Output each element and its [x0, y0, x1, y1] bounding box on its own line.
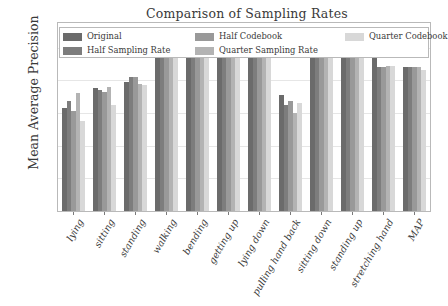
y-tick-mark [57, 178, 58, 179]
legend-swatch [195, 33, 214, 41]
legend-swatch [63, 33, 82, 41]
x-tick-label: sitting [91, 217, 116, 249]
bar [359, 49, 363, 211]
x-tick-mark [383, 212, 384, 215]
legend-entry[interactable]: Half Codebook [195, 30, 345, 43]
bar [235, 49, 239, 211]
bar [142, 85, 146, 211]
legend-swatch [345, 33, 364, 41]
legend-entry[interactable]: Half Sampling Rate [63, 44, 195, 57]
bar [173, 52, 177, 211]
gridline [58, 211, 430, 212]
x-tick-label: lying [64, 217, 85, 243]
x-tick-mark [290, 212, 291, 215]
y-axis-label: Mean Average Precision [26, 13, 41, 173]
legend-label: Half Codebook [219, 32, 282, 40]
x-tick-mark [135, 212, 136, 215]
x-tick-label: standing [117, 217, 147, 259]
legend-swatch [63, 47, 82, 55]
x-tick-label: walking [150, 217, 178, 255]
legend-swatch [195, 47, 214, 55]
x-tick-mark [259, 212, 260, 215]
bar [80, 121, 84, 211]
x-tick-label: MAP [405, 217, 426, 242]
x-tick-mark [166, 212, 167, 215]
x-tick-label: bending [180, 217, 209, 256]
x-tick-mark [228, 212, 229, 215]
chart-legend: OriginalHalf CodebookQuarter CodebookHal… [59, 27, 429, 58]
bar [390, 66, 394, 211]
x-tick-mark [414, 212, 415, 215]
legend-label: Quarter Sampling Rate [219, 46, 318, 54]
x-tick-mark [73, 212, 74, 215]
bar [204, 49, 208, 211]
x-tick-mark [104, 212, 105, 215]
bar [266, 49, 270, 211]
y-tick-mark [57, 80, 58, 81]
y-tick-mark [57, 145, 58, 146]
legend-label: Quarter Codebook [369, 32, 448, 40]
bar [421, 70, 425, 211]
y-tick-mark [57, 211, 58, 212]
x-tick-mark [321, 212, 322, 215]
x-tick-mark [352, 212, 353, 215]
legend-label: Half Sampling Rate [87, 46, 170, 54]
legend-label: Original [87, 32, 122, 40]
chart-title: Comparison of Sampling Rates [55, 6, 439, 21]
x-tick-mark [197, 212, 198, 215]
y-tick-mark [57, 47, 58, 48]
x-tick-label: lying down [235, 217, 271, 268]
legend-grid: OriginalHalf CodebookQuarter CodebookHal… [63, 30, 425, 55]
legend-entry[interactable]: Quarter Sampling Rate [195, 44, 345, 57]
bar [297, 103, 301, 211]
bar [328, 49, 332, 211]
y-tick-mark [57, 112, 58, 113]
legend-entry[interactable]: Original [63, 30, 195, 43]
x-tick-label: getting up [206, 217, 240, 266]
legend-entry[interactable]: Quarter Codebook [345, 30, 448, 43]
bar [111, 105, 115, 211]
